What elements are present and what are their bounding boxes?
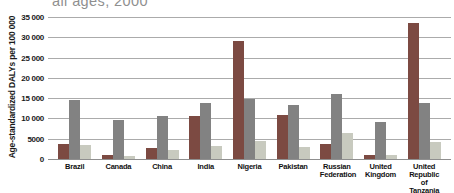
bar-light-gray xyxy=(211,146,222,159)
bar-gray xyxy=(157,116,168,159)
bar-gray xyxy=(331,94,342,159)
x-tick-label: Brazil xyxy=(58,163,92,193)
bar-dark-red xyxy=(233,41,244,159)
y-tick-label: 20 000 xyxy=(0,74,44,83)
bar-dark-red xyxy=(102,155,113,159)
bar-dark-red xyxy=(408,23,419,159)
bar-gray xyxy=(288,105,299,159)
x-tick-label: United Kingdom xyxy=(364,163,398,193)
x-tick-label: Pakistan xyxy=(276,163,310,193)
bar-light-gray xyxy=(342,133,353,159)
bar-gray xyxy=(419,103,430,159)
y-tick-label: 35 000 xyxy=(0,13,44,22)
bar-gray xyxy=(244,99,255,159)
bar-light-gray xyxy=(168,150,179,159)
bar-group xyxy=(320,17,354,159)
chart-title: all ages, 2000 xyxy=(52,0,148,9)
bar-light-gray xyxy=(255,141,266,159)
bar-gray xyxy=(375,122,386,159)
bar-group xyxy=(101,17,135,159)
bar-light-gray xyxy=(80,145,91,159)
bar-group xyxy=(58,17,92,159)
bar-group xyxy=(145,17,179,159)
bar-light-gray xyxy=(124,156,135,159)
x-tick-label: United Republic of Tanzania xyxy=(407,163,441,193)
bar-light-gray xyxy=(430,142,441,159)
x-axis-labels: BrazilCanadaChinaIndiaNigeriaPakistanRus… xyxy=(48,163,451,193)
y-tick-label: 0 xyxy=(0,155,44,164)
x-tick-label: Canada xyxy=(101,163,135,193)
bar-gray xyxy=(200,103,211,159)
bar-dark-red xyxy=(189,116,200,159)
bar-groups xyxy=(48,17,451,159)
x-tick-label: India xyxy=(189,163,223,193)
bar-group xyxy=(407,17,441,159)
bar-dark-red xyxy=(58,144,69,159)
bar-dark-red xyxy=(146,148,157,159)
bar-light-gray xyxy=(299,147,310,159)
x-tick-label: Nigeria xyxy=(232,163,266,193)
bar-dark-red xyxy=(364,155,375,159)
bar-gray xyxy=(69,100,80,159)
bar-light-gray xyxy=(386,155,397,159)
bar-group xyxy=(232,17,266,159)
x-tick-label: China xyxy=(145,163,179,193)
bar-group xyxy=(276,17,310,159)
bar-dark-red xyxy=(277,115,288,159)
plot-area xyxy=(48,17,451,160)
y-tick-label: 25 000 xyxy=(0,54,44,63)
bar-group xyxy=(364,17,398,159)
bar-chart-figure: all ages, 2000 Age-standardized DALYs pe… xyxy=(0,0,454,193)
y-tick-label: 5000 xyxy=(0,135,44,144)
y-tick-label: 30 000 xyxy=(0,33,44,42)
bar-dark-red xyxy=(320,144,331,159)
bar-group xyxy=(189,17,223,159)
bar-gray xyxy=(113,120,124,159)
y-tick-label: 15 000 xyxy=(0,94,44,103)
y-tick-label: 10 000 xyxy=(0,114,44,123)
x-tick-label: Russian Federation xyxy=(320,163,354,193)
